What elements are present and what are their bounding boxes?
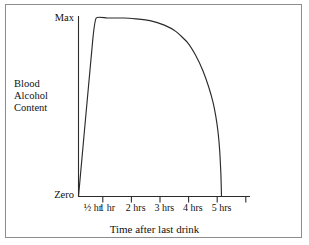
y-tick-label-max: Max: [36, 12, 74, 24]
x-axis-title: Time after last drink: [0, 223, 309, 235]
x-tick-label-3-hrs: 3 hrs: [154, 202, 174, 213]
y-tick-label-zero: Zero: [34, 189, 74, 201]
y-axis-title-line-1: Blood: [14, 78, 76, 90]
chart-figure: Max Zero Blood Alcohol Content ½ hr1 hr2…: [0, 0, 309, 245]
y-axis-title-line-3: Content: [14, 102, 76, 114]
y-axis-title-line-2: Alcohol: [14, 90, 76, 102]
x-tick-label-2-hrs: 2 hrs: [126, 202, 146, 213]
y-axis-title: Blood Alcohol Content: [14, 78, 76, 113]
x-axis-tick-labels: ½ hr1 hr2 hrs3 hrs4 hrs5 hrs: [0, 202, 309, 216]
x-tick-label-1-hr: 1 hr: [99, 202, 115, 213]
x-tick-label-4-hrs: 4 hrs: [183, 202, 203, 213]
x-tick-label-5-hrs: 5 hrs: [212, 202, 232, 213]
bac-curve: [79, 17, 222, 196]
